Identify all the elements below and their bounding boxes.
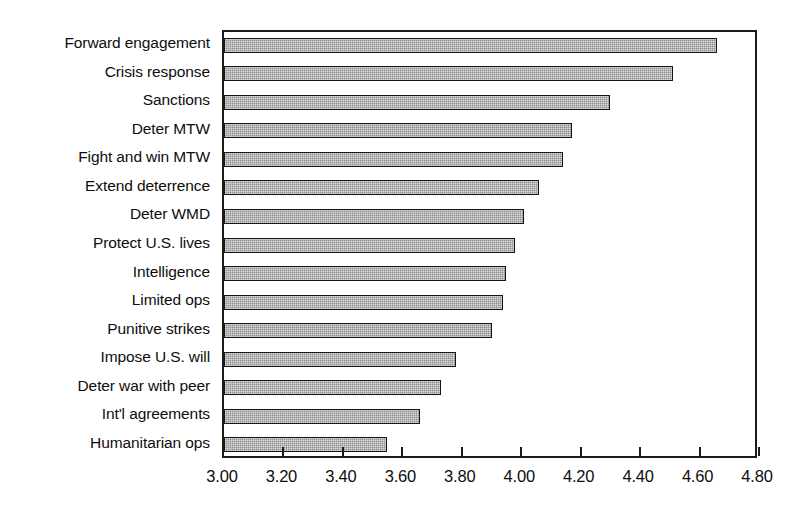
x-axis-tick-mark	[520, 447, 522, 456]
category-label: Deter WMD	[130, 206, 210, 222]
bar	[224, 152, 563, 167]
x-axis-tick-label: 4.00	[504, 466, 535, 486]
bar	[224, 380, 441, 395]
x-axis-tick-mark	[342, 447, 344, 456]
x-axis-tick-mark	[758, 447, 760, 456]
bar	[224, 180, 539, 195]
bar	[224, 38, 717, 53]
bar	[224, 266, 506, 281]
category-label: Intelligence	[133, 264, 210, 280]
x-axis-tick-label: 4.60	[682, 466, 713, 486]
x-axis-tick-mark	[699, 447, 701, 456]
x-axis-tick-label: 3.60	[385, 466, 416, 486]
category-label: Fight and win MTW	[78, 149, 210, 165]
x-axis-tick-label: 3.00	[206, 466, 237, 486]
bar	[224, 352, 456, 367]
x-axis-tick-mark	[282, 447, 284, 456]
category-label: Protect U.S. lives	[93, 235, 210, 251]
bar	[224, 409, 420, 424]
x-axis-tick-label: 3.20	[266, 466, 297, 486]
category-label: Extend deterrence	[85, 178, 210, 194]
category-label: Crisis response	[105, 64, 210, 80]
plot-area	[222, 30, 757, 458]
category-label: Impose U.S. will	[100, 349, 210, 365]
bar	[224, 323, 492, 338]
category-label: Deter MTW	[132, 121, 210, 137]
category-label: Deter war with peer	[78, 378, 210, 394]
bar	[224, 123, 572, 138]
x-axis-tick-mark	[639, 447, 641, 456]
category-label: Forward engagement	[64, 35, 210, 51]
bar-chart-figure: Forward engagementCrisis responseSanctio…	[0, 0, 810, 511]
category-axis-labels: Forward engagementCrisis responseSanctio…	[0, 30, 216, 458]
x-axis-tick-labels: 3.003.203.403.603.804.004.204.404.604.80	[222, 466, 757, 492]
x-axis-tick-mark	[580, 447, 582, 456]
bar	[224, 66, 673, 81]
x-axis-tick-label: 4.20	[563, 466, 594, 486]
x-axis-tick-label: 4.80	[741, 466, 772, 486]
category-label: Int'l agreements	[102, 406, 210, 422]
plot-inner	[224, 32, 755, 456]
bar	[224, 95, 610, 110]
category-label: Limited ops	[132, 292, 210, 308]
bar	[224, 437, 387, 452]
x-axis-tick-label: 3.40	[325, 466, 356, 486]
bar	[224, 209, 524, 224]
x-axis-tick-label: 4.40	[622, 466, 653, 486]
x-axis-tick-mark	[401, 447, 403, 456]
x-axis-tick-label: 3.80	[444, 466, 475, 486]
category-label: Sanctions	[143, 92, 210, 108]
bar	[224, 238, 515, 253]
bar	[224, 295, 503, 310]
category-label: Humanitarian ops	[90, 435, 210, 451]
category-label: Punitive strikes	[107, 321, 210, 337]
x-axis-tick-mark	[461, 447, 463, 456]
